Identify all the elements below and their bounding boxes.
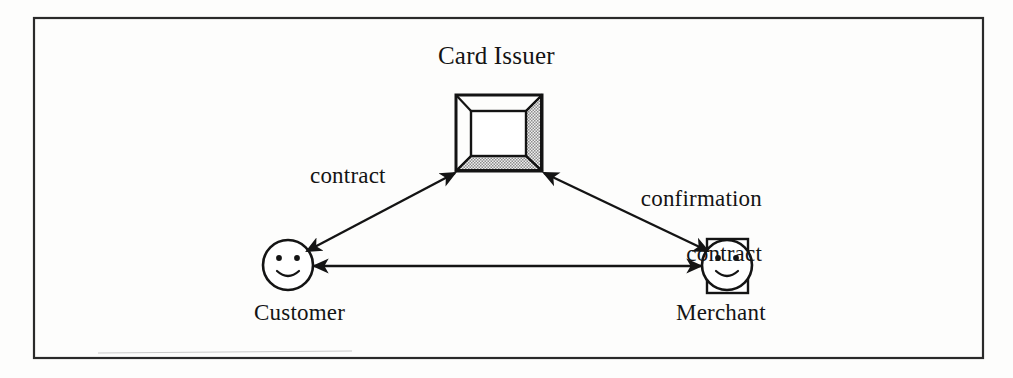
edge-label-contract: contract (310, 163, 386, 189)
edge-label-confirmation-line-2: contract (602, 241, 762, 267)
scanned-figure-page: Card Issuer Customer Merchant contract c… (0, 0, 1013, 378)
node-label-card-issuer: Card Issuer (438, 42, 555, 71)
edge-label-confirmation-contract: confirmation contract (602, 160, 762, 319)
node-label-customer: Customer (254, 300, 345, 326)
node-customer[interactable] (263, 240, 313, 290)
customer-eye-right (294, 255, 300, 261)
box-inner-opening (471, 111, 526, 156)
customer-eye-left (276, 255, 282, 261)
box-corner-line-tl (456, 95, 471, 111)
node-card-issuer[interactable] (456, 95, 542, 171)
customer-face-circle (263, 240, 313, 290)
scan-artifact (98, 351, 352, 353)
edge-label-confirmation-line-1: confirmation (641, 186, 762, 211)
